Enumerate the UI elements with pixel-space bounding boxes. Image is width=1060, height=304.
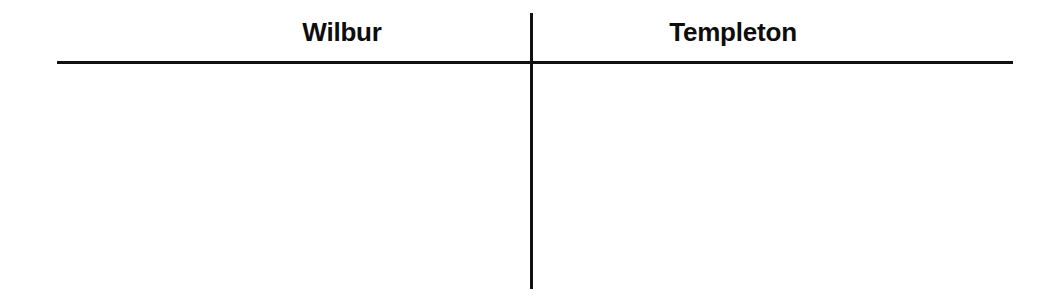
column-body-left[interactable] [57, 66, 528, 302]
column-body-right[interactable] [535, 66, 1013, 302]
t-chart: Wilbur Templeton [0, 0, 1060, 304]
header-underline-rule [57, 61, 1013, 64]
column-header-right: Templeton [669, 16, 797, 48]
column-header-left: Wilbur [302, 16, 381, 48]
column-divider-rule [530, 13, 533, 289]
